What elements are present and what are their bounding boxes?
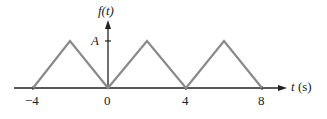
triangle-wave-series bbox=[33, 41, 262, 88]
tick-label-8: 8 bbox=[258, 93, 265, 109]
x-axis-arrow-icon bbox=[278, 85, 287, 91]
amplitude-label: A bbox=[91, 33, 99, 49]
tick-label-neg4: −4 bbox=[25, 93, 39, 109]
x-axis-label: t (s) bbox=[291, 79, 312, 95]
waveform-plot bbox=[0, 0, 327, 119]
y-axis-arrow-icon bbox=[105, 20, 111, 29]
tick-label-0: 0 bbox=[104, 93, 111, 109]
tick-label-4: 4 bbox=[182, 93, 189, 109]
y-axis-label: f(t) bbox=[98, 3, 114, 19]
